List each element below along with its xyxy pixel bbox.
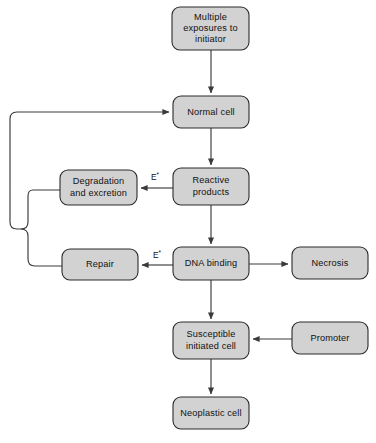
node-normal-cell-label: Normal cell	[187, 107, 235, 117]
node-neoplastic-cell-label: Neoplastic cell	[180, 408, 241, 418]
node-multiple-exposures-label-line2: exposures to	[183, 23, 237, 33]
node-reactive-products-label-line2: products	[193, 187, 230, 197]
edge-repair-feedback-to-normal	[21, 229, 62, 266]
node-promoter[interactable]: Promoter	[292, 322, 368, 354]
node-susceptible-initiated-cell[interactable]: Susceptible initiated cell	[173, 322, 249, 359]
node-dna-binding[interactable]: DNA binding	[173, 247, 249, 280]
node-degradation-excretion-label-line1: Degradation	[73, 176, 125, 186]
node-multiple-exposures-label-line3: initiator	[195, 34, 226, 44]
edge-label-e-star-degradation: E*	[151, 171, 160, 183]
node-necrosis-label: Necrosis	[312, 258, 349, 268]
flowchart-canvas: E* E* Multiple exposures to initiator No…	[0, 0, 376, 443]
nodes-group: Multiple exposures to initiator Normal c…	[60, 7, 368, 429]
node-necrosis[interactable]: Necrosis	[292, 247, 368, 279]
node-multiple-exposures[interactable]: Multiple exposures to initiator	[172, 7, 249, 50]
node-multiple-exposures-label-line1: Multiple	[194, 12, 227, 22]
node-degradation-excretion[interactable]: Degradation and excretion	[60, 170, 137, 205]
node-susceptible-initiated-cell-label-line1: Susceptible	[186, 329, 235, 339]
edge-labels-group: E* E*	[151, 171, 162, 261]
edge-label-e-star-repair: E*	[153, 249, 162, 261]
node-dna-binding-label: DNA binding	[185, 258, 238, 268]
flowchart-svg: E* E* Multiple exposures to initiator No…	[0, 0, 376, 443]
edges-group	[10, 50, 292, 394]
node-susceptible-initiated-cell-label-line2: initiated cell	[186, 341, 236, 351]
node-repair-label: Repair	[86, 259, 114, 269]
node-neoplastic-cell[interactable]: Neoplastic cell	[173, 397, 249, 429]
node-promoter-label: Promoter	[311, 333, 350, 343]
node-degradation-excretion-label-line2: and excretion	[70, 188, 127, 198]
node-repair[interactable]: Repair	[62, 249, 138, 280]
node-reactive-products-label-line1: Reactive	[193, 175, 230, 185]
node-reactive-products[interactable]: Reactive products	[173, 168, 249, 205]
node-normal-cell[interactable]: Normal cell	[173, 96, 249, 128]
